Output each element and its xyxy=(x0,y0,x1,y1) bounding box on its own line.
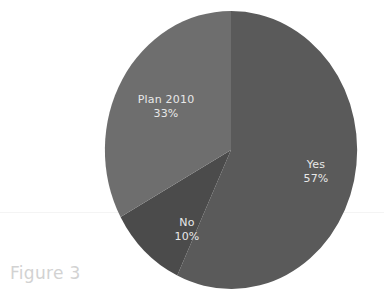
pie-chart-svg xyxy=(0,0,384,305)
figure-root: Yes 57% Plan 2010 33% No 10% Figure 3 xyxy=(0,0,384,305)
pie-chart: Yes 57% Plan 2010 33% No 10% xyxy=(0,0,384,305)
figure-caption: Figure 3 xyxy=(10,262,81,284)
